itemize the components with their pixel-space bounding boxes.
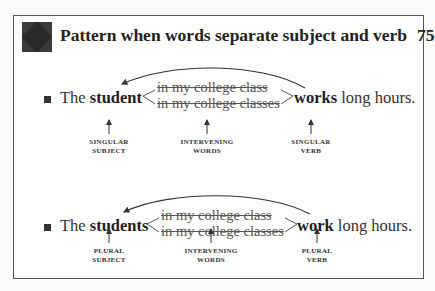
close-bracket <box>285 218 297 232</box>
open-bracket <box>143 90 155 104</box>
close-bracket <box>281 90 293 104</box>
open-bracket <box>147 218 159 232</box>
agreement-arc-arrow <box>122 68 305 88</box>
agreement-arc-arrow <box>124 196 310 214</box>
